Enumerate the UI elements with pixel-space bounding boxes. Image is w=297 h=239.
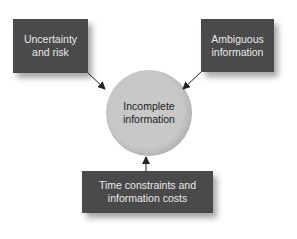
arrow-ambiguous-to-center (183, 72, 201, 89)
connector-arrows (0, 0, 297, 239)
arrow-uncertainty-to-center (88, 73, 105, 89)
